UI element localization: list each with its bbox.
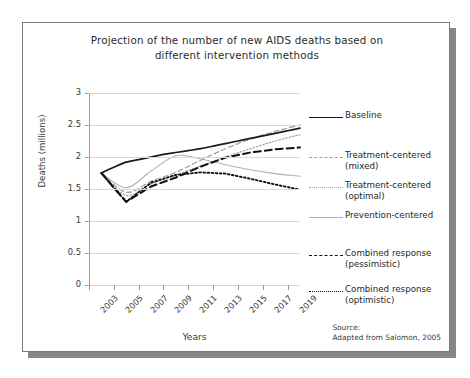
gridline-0.5	[89, 253, 300, 254]
figure-frame: Projection of the number of new AIDS dea…	[22, 22, 450, 352]
y-tick-label-0: 0	[37, 279, 81, 289]
legend-line-sample-icon	[309, 255, 343, 258]
legend-item-label: Prevention-centered	[345, 210, 451, 221]
gridline-0	[89, 285, 300, 286]
legend-label-line-1: Baseline	[345, 110, 382, 120]
legend-line-sample-icon	[309, 291, 343, 294]
legend-label-line-1: Treatment-centered	[345, 150, 431, 160]
source-note: Source: Adapted from Salomon, 2005	[332, 323, 441, 343]
series-line-combined-pessimistic	[101, 147, 300, 201]
x-tick-mark-2017	[263, 285, 264, 290]
x-tick-mark-2011	[188, 285, 189, 290]
legend-label-line-2: (optimal)	[345, 191, 451, 202]
x-axis-title: Years	[89, 331, 300, 342]
legend-item-label: Baseline	[345, 110, 451, 121]
y-tick-label-2.5: 2.5	[37, 119, 81, 129]
chart-title-line-2: different intervention methods	[23, 48, 451, 63]
chart-title-line-1: Projection of the number of new AIDS dea…	[23, 33, 451, 48]
legend-item-label: Combined response(pessimistic)	[345, 248, 451, 270]
series-line-combined-optimistic	[101, 172, 300, 201]
legend-line-sample-icon	[309, 117, 343, 120]
legend-label-line-1: Treatment-centered	[345, 180, 431, 190]
y-tick-label-1.5: 1.5	[37, 183, 81, 193]
y-axis-labels: 3 2.5 2 1.5 1 0.5 0	[31, 23, 81, 353]
gridline-3	[89, 93, 300, 94]
x-tick-label-2005: 2005	[123, 293, 145, 315]
legend-label-line-1: Combined response	[345, 248, 431, 258]
legend-item-label: Combined response(optimistic)	[345, 284, 451, 306]
gridline-2.5	[89, 125, 300, 126]
x-tick-label-2015: 2015	[247, 293, 269, 315]
gridline-2	[89, 157, 300, 158]
legend-line-sample-icon	[309, 157, 343, 160]
legend-item-label: Treatment-centered(optimal)	[345, 180, 451, 202]
legend-item-label: Treatment-centered(mixed)	[345, 150, 451, 172]
x-tick-label-2003: 2003	[98, 293, 120, 315]
legend-label-line-2: (pessimistic)	[345, 259, 451, 270]
y-tick-label-2: 2	[37, 151, 81, 161]
gridline-1	[89, 221, 300, 222]
x-tick-mark-2003	[89, 285, 90, 290]
x-tick-mark-2007	[139, 285, 140, 290]
gridline-1.5	[89, 189, 300, 190]
x-tick-label-2019: 2019	[297, 293, 319, 315]
legend-label-line-2: (mixed)	[345, 161, 451, 172]
legend-label-line-1: Prevention-centered	[345, 210, 433, 220]
x-tick-label-2007: 2007	[148, 293, 170, 315]
source-label: Source:	[332, 323, 441, 333]
x-tick-mark-2015	[238, 285, 239, 290]
x-tick-label-2017: 2017	[272, 293, 294, 315]
legend-label-line-2: (optimistic)	[345, 295, 451, 306]
plot-area	[89, 93, 300, 285]
legend-line-sample-icon	[309, 187, 343, 190]
x-tick-mark-2013	[213, 285, 214, 290]
x-tick-mark-2005	[114, 285, 115, 290]
x-tick-mark-2009	[163, 285, 164, 290]
x-tick-label-2013: 2013	[222, 293, 244, 315]
x-tick-mark-2019	[288, 285, 289, 290]
x-tick-label-2009: 2009	[173, 293, 195, 315]
source-citation: Adapted from Salomon, 2005	[332, 333, 441, 343]
legend-line-sample-icon	[309, 217, 343, 220]
chart-title: Projection of the number of new AIDS dea…	[23, 33, 451, 63]
legend-label-line-1: Combined response	[345, 284, 431, 294]
x-tick-label-2011: 2011	[197, 293, 219, 315]
y-tick-label-1: 1	[37, 215, 81, 225]
figure-root: Projection of the number of new AIDS dea…	[0, 0, 470, 378]
y-tick-label-3: 3	[37, 87, 81, 97]
y-tick-label-0.5: 0.5	[37, 247, 81, 257]
